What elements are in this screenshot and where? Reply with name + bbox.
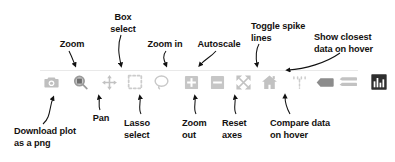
lasso-icon (153, 74, 170, 91)
dashed-square-icon (127, 74, 143, 90)
camera-icon (43, 74, 60, 91)
plotly-bars-icon (371, 74, 387, 90)
pan-button[interactable] (98, 71, 120, 93)
annotation-download-plot: Download plot as a png (14, 126, 104, 149)
annotation-compare-data: Compare data on hover (270, 118, 352, 141)
zoom-in-button[interactable] (180, 71, 202, 93)
autoscale-button[interactable] (232, 71, 254, 93)
annotation-show-closest-data: Show closest data on hover (314, 32, 394, 55)
magnifier-icon (72, 74, 89, 91)
arrow-show-closest-data (288, 53, 340, 70)
annotation-lasso-select: Lasso select (124, 118, 164, 141)
plus-square-icon (184, 75, 199, 90)
arrow-download-plot (43, 98, 53, 124)
box-select-button[interactable] (124, 71, 146, 93)
arrow-box-select (119, 35, 121, 65)
annotation-toggle-spike-lines: Toggle spike lines (251, 21, 315, 44)
zoom-button[interactable] (69, 71, 91, 93)
hover-closest-icon (316, 76, 334, 89)
plotly-modebar[interactable] (40, 71, 358, 93)
hover-compare-icon (339, 76, 357, 89)
reset-axes-button[interactable] (258, 71, 280, 93)
annotation-zoom: Zoom (52, 39, 92, 51)
annotation-zoom-in: Zoom in (141, 39, 189, 51)
arrow-zoom-out (195, 97, 196, 114)
zoom-out-button[interactable] (206, 71, 228, 93)
arrow-compare-data (285, 96, 290, 114)
minus-square-icon (210, 75, 225, 90)
spike-lines-icon (292, 75, 307, 90)
download-plot-button[interactable] (40, 71, 62, 93)
annotation-zoom-out: Zoom out (182, 118, 222, 141)
show-closest-data-button[interactable] (314, 71, 336, 93)
arrow-reset-axes (235, 97, 236, 114)
compare-data-button[interactable] (337, 71, 359, 93)
arrow-autoscale (200, 51, 216, 65)
move-arrows-icon (101, 74, 118, 91)
toggle-spike-lines-button[interactable] (288, 71, 310, 93)
annotation-reset-axes: Reset axes (222, 118, 262, 141)
modebar-annotation-diagram: Zoom Box select Zoom in Autoscale Toggle… (0, 0, 395, 162)
arrow-zoom (69, 51, 75, 65)
arrow-lasso-select (140, 97, 141, 114)
arrow-toggle-spike-lines (256, 44, 259, 65)
arrow-pan (99, 97, 100, 110)
annotation-box-select: Box select (102, 12, 144, 35)
annotation-autoscale: Autoscale (192, 39, 246, 51)
home-icon (261, 74, 278, 91)
plotly-logo-button[interactable] (368, 71, 390, 93)
lasso-select-button[interactable] (150, 71, 172, 93)
annotation-pan: Pan (88, 113, 114, 125)
expand-arrows-icon (235, 74, 252, 91)
arrow-zoom-in (164, 51, 166, 65)
